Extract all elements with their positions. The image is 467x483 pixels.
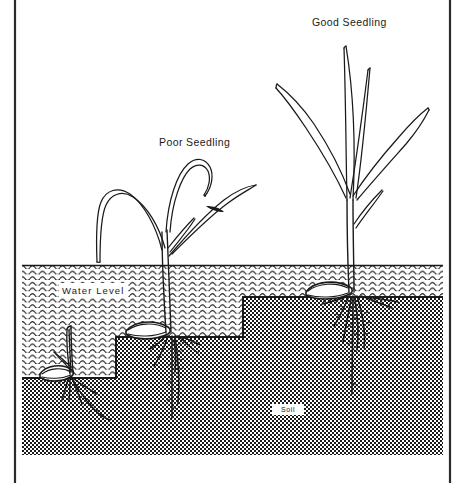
poor-seedling-leaf-3 [96, 190, 165, 263]
poor-seedling-leaf-2 [169, 185, 256, 256]
soil-label: Soil [272, 404, 304, 415]
poor-seedling-leaf-1 [166, 159, 212, 232]
good-seedling-label: Good Seedling [312, 16, 387, 28]
water-level-label: Water Level [59, 283, 128, 297]
good-seedling-leaf-3 [276, 84, 350, 198]
good-seedling-leaf-5 [354, 190, 383, 228]
diagram-canvas [0, 0, 467, 483]
seedling-diagram: Good Seedling Poor Seedling Water Level … [0, 0, 467, 483]
good-seedling-leaf-2 [350, 68, 370, 198]
poor-seedling-label: Poor Seedling [159, 136, 230, 148]
